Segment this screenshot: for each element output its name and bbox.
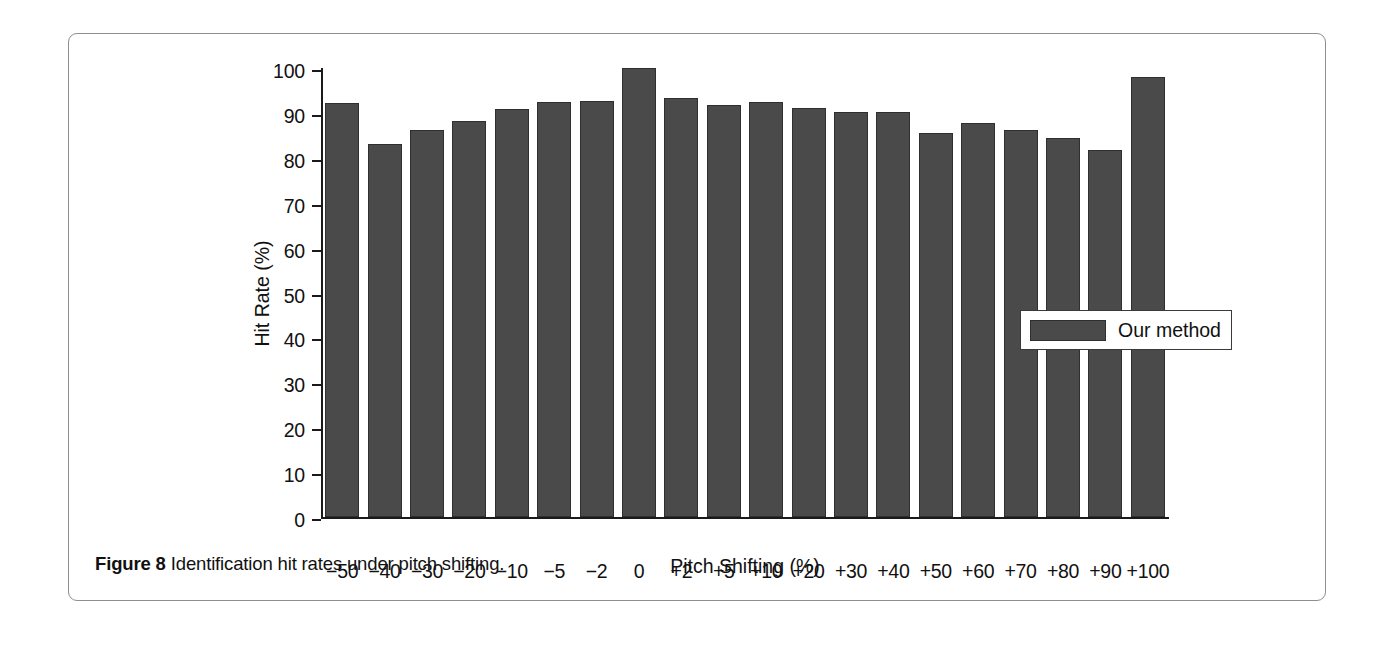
y-axis-label: Hit Rate (%): [251, 68, 277, 519]
y-tick-mark: 30: [312, 384, 321, 386]
bar-rect: [580, 101, 614, 517]
bar-rect: [495, 109, 529, 517]
y-tick-mark: 100: [312, 70, 321, 72]
bar-−50: [325, 68, 359, 517]
bar-+70: [1004, 68, 1038, 517]
bar-rect: [537, 102, 571, 517]
y-tick-mark: 90: [312, 115, 321, 117]
bar-−20: [452, 68, 486, 517]
y-tick-mark: 70: [312, 205, 321, 207]
bar-+50: [919, 68, 953, 517]
bar-+10: [749, 68, 783, 517]
legend-swatch-our-method: [1030, 320, 1106, 341]
bar-+5: [707, 68, 741, 517]
bar-+20: [792, 68, 826, 517]
bar-rect: [1131, 77, 1165, 517]
bar-+30: [834, 68, 868, 517]
y-tick-mark: 60: [312, 250, 321, 252]
bar-0: [622, 68, 656, 517]
bar-−30: [410, 68, 444, 517]
bar-rect: [325, 103, 359, 517]
y-tick-mark: 50: [312, 295, 321, 297]
y-tick-label: 0: [294, 509, 305, 532]
y-tick-label: 10: [284, 464, 305, 487]
bar-+40: [876, 68, 910, 517]
bar-rect: [664, 98, 698, 517]
chart-axes: 0102030405060708090100 −50−40−30−20−10−5…: [321, 68, 1169, 519]
bar-+2: [664, 68, 698, 517]
bar-+60: [961, 68, 995, 517]
figure-caption-label: Figure 8: [95, 553, 166, 574]
bar-−2: [580, 68, 614, 517]
chart-legend: Our method: [1020, 310, 1232, 350]
y-tick-label: 20: [284, 419, 305, 442]
chart-plot-area: 0102030405060708090100 −50−40−30−20−10−5…: [69, 34, 1327, 542]
y-tick-mark: 0: [312, 519, 321, 521]
y-tick-label: 70: [284, 194, 305, 217]
bar-rect: [792, 108, 826, 517]
figure-caption-text: Identification hit rates under pitch shi…: [171, 553, 505, 574]
y-tick-label: 50: [284, 284, 305, 307]
legend-label-our-method: Our method: [1118, 319, 1221, 342]
figure-card: 0102030405060708090100 −50−40−30−20−10−5…: [68, 33, 1326, 601]
y-tick-mark: 10: [312, 474, 321, 476]
bar-rect: [452, 121, 486, 517]
figure-caption: Figure 8 Identification hit rates under …: [95, 553, 1305, 575]
bar-−10: [495, 68, 529, 517]
y-tick-label: 80: [284, 149, 305, 172]
bar-rect: [622, 68, 656, 517]
bar-rect: [410, 130, 444, 517]
bar-rect: [749, 102, 783, 517]
y-tick-mark: 80: [312, 160, 321, 162]
bar-rect: [919, 133, 953, 517]
bar-+100: [1131, 68, 1165, 517]
bar-rect: [876, 112, 910, 517]
y-tick-mark: 40: [312, 339, 321, 341]
x-axis-line: [321, 517, 1169, 519]
y-tick-label: 30: [284, 374, 305, 397]
y-tick-label: 100: [273, 60, 305, 83]
y-tick-label: 40: [284, 329, 305, 352]
y-tick-label: 60: [284, 239, 305, 262]
bar-+90: [1088, 68, 1122, 517]
bar-rect: [707, 105, 741, 517]
bar-rect: [834, 112, 868, 517]
bar-series-our-method: [321, 68, 1169, 517]
bar-−40: [368, 68, 402, 517]
y-tick-label: 90: [284, 104, 305, 127]
bar-rect: [961, 123, 995, 517]
y-axis-label-text: Hit Rate (%): [251, 68, 274, 519]
bar-rect: [368, 144, 402, 517]
bar-+80: [1046, 68, 1080, 517]
bar-−5: [537, 68, 571, 517]
y-tick-mark: 20: [312, 429, 321, 431]
